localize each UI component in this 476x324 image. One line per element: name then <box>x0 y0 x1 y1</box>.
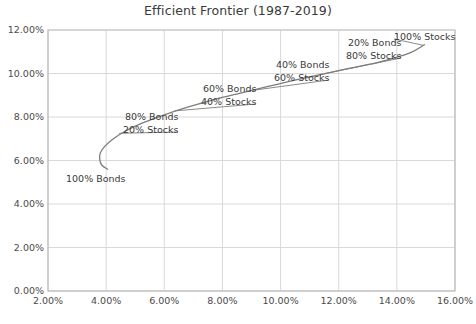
x-tick-label: 2.00% <box>18 295 78 306</box>
y-tick-label: 4.00% <box>0 198 44 209</box>
y-tick-label: 6.00% <box>0 155 44 166</box>
x-tick-label: 12.00% <box>309 295 369 306</box>
annotation-line: 40% Bonds <box>274 58 329 71</box>
annotation-line: 60% Stocks <box>274 71 329 84</box>
y-tick-label: 10.00% <box>0 68 44 79</box>
efficient-frontier-chart: Efficient Frontier (1987-2019) 0.00%2.00… <box>0 0 476 324</box>
annotation-80-bonds-20-stocks: 80% Bonds20% Stocks <box>123 110 178 136</box>
x-tick-label: 8.00% <box>192 295 252 306</box>
annotation-line: 80% Bonds <box>123 110 178 123</box>
x-tick-label: 10.00% <box>251 295 311 306</box>
x-tick-label: 14.00% <box>367 295 427 306</box>
y-tick-label: 12.00% <box>0 24 44 35</box>
annotation-line: 20% Stocks <box>123 123 178 136</box>
x-tick-label: 16.00% <box>425 295 476 306</box>
x-tick-label: 4.00% <box>76 295 136 306</box>
annotation-60-bonds-40-stocks: 60% Bonds40% Stocks <box>201 82 256 108</box>
x-tick-label: 6.00% <box>134 295 194 306</box>
annotation-100-percent-stocks: 100% Stocks <box>394 30 455 43</box>
grid-lines <box>48 30 455 291</box>
y-tick-label: 2.00% <box>0 242 44 253</box>
annotation-line: 40% Stocks <box>201 95 256 108</box>
annotation-line: 60% Bonds <box>201 82 256 95</box>
annotation-40-bonds-60-stocks: 40% Bonds60% Stocks <box>274 58 329 84</box>
y-tick-label: 8.00% <box>0 111 44 122</box>
plot-area <box>0 0 476 324</box>
annotation-line: 100% Stocks <box>394 30 455 43</box>
annotation-line: 80% Stocks <box>346 49 401 62</box>
annotation-100-percent-bonds: 100% Bonds <box>66 172 126 185</box>
annotation-line: 100% Bonds <box>66 172 126 185</box>
